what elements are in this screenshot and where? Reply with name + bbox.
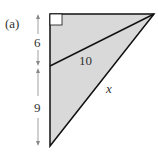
unknown-side-label: x <box>105 81 112 96</box>
triangle-diagram: (a) 6 9 10 x <box>0 0 158 156</box>
inner-segment-label: 10 <box>79 53 92 68</box>
right-angle-marker <box>50 14 62 25</box>
right-triangle <box>50 14 154 146</box>
part-label: (a) <box>5 16 19 31</box>
segment-bottom-label: 9 <box>34 100 41 115</box>
segment-top-label: 6 <box>34 35 41 50</box>
